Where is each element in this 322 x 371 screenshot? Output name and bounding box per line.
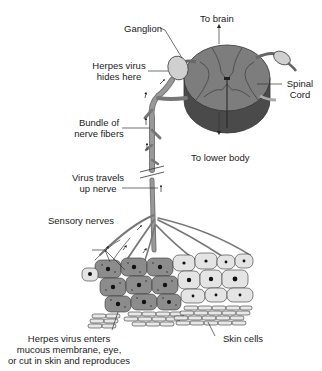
label-enters-line1: Herpes virus enters: [6, 333, 132, 344]
herpes-pathway-diagram: [0, 0, 322, 371]
label-herpes-hides-line2: hides here: [88, 71, 150, 82]
label-virus-enters: Herpes virus enters mucous membrane, eye…: [6, 333, 132, 366]
label-herpes-hides: Herpes virus hides here: [88, 60, 150, 82]
label-bundle-line1: Bundle of: [70, 117, 128, 128]
label-bundle-line2: nerve fibers: [70, 128, 128, 139]
label-herpes-hides-line1: Herpes virus: [88, 60, 150, 71]
label-spinal-line2: Cord: [283, 89, 317, 100]
label-virus-travels: Virus travels up nerve: [68, 172, 128, 194]
label-skin-cells: Skin cells: [223, 333, 263, 344]
label-ganglion: Ganglion: [124, 23, 162, 34]
label-sensory-nerves: Sensory nerves: [48, 215, 114, 226]
label-bundle: Bundle of nerve fibers: [70, 117, 128, 139]
label-virus-travels-line2: up nerve: [68, 183, 128, 194]
label-to-lower-body: To lower body: [191, 152, 250, 163]
label-enters-line2: mucous membrane, eye,: [6, 344, 132, 355]
label-enters-line3: or cut in skin and reproduces: [6, 355, 132, 366]
label-spinal-line1: Spinal: [283, 78, 317, 89]
label-virus-travels-line1: Virus travels: [68, 172, 128, 183]
skin-tissue: [82, 253, 253, 328]
label-spinal-cord: Spinal Cord: [283, 78, 317, 100]
spinal-cord: [184, 45, 296, 133]
label-to-brain: To brain: [200, 13, 234, 24]
